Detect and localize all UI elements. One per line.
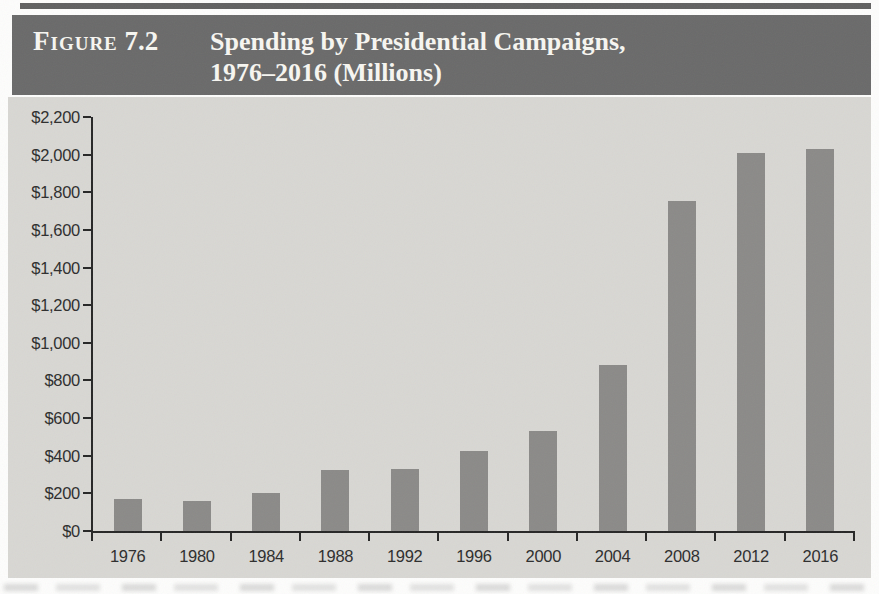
y-axis-tick	[83, 492, 91, 494]
x-axis-tick	[784, 533, 786, 541]
y-axis-line	[91, 117, 93, 541]
bar-1992	[391, 469, 419, 531]
y-axis-tick	[83, 229, 91, 231]
x-axis-tick	[853, 533, 855, 541]
figure-header: Figure 7.2 Spending by Presidential Camp…	[12, 15, 871, 95]
y-axis-label: $800	[8, 371, 80, 390]
y-axis-label: $1,200	[8, 296, 80, 315]
y-axis-label: $1,000	[8, 334, 80, 353]
y-axis-label: $1,800	[8, 183, 80, 202]
y-axis-label: $2,200	[8, 108, 80, 127]
bar-1976	[114, 499, 142, 531]
y-axis-label: $200	[8, 484, 80, 503]
figure-number: 7.2	[125, 26, 159, 56]
x-axis-tick	[299, 533, 301, 541]
bar-2012	[737, 153, 765, 531]
bar-1984	[252, 493, 280, 531]
x-axis-tick	[714, 533, 716, 541]
x-axis-tick	[645, 533, 647, 541]
y-axis-label: $0	[8, 522, 80, 541]
bar-2016	[806, 149, 834, 531]
x-axis-label: 1976	[93, 547, 162, 566]
y-axis-label: $2,000	[8, 146, 80, 165]
x-axis-tick	[576, 533, 578, 541]
y-axis-tick	[83, 116, 91, 118]
y-axis-tick	[83, 342, 91, 344]
y-axis-tick	[83, 379, 91, 381]
y-axis-label: $600	[8, 409, 80, 428]
bar-2004	[599, 365, 627, 531]
x-axis-label: 2012	[716, 547, 785, 566]
y-axis-tick	[83, 530, 91, 532]
y-axis-tick	[83, 304, 91, 306]
y-axis-tick	[83, 417, 91, 419]
bar-chart-panel: $0$200$400$600$800$1,000$1,200$1,400$1,6…	[8, 97, 871, 578]
x-axis-tick	[230, 533, 232, 541]
y-axis-tick	[83, 191, 91, 193]
cropped-caption-text	[4, 584, 874, 591]
figure-title: Spending by Presidential Campaigns, 1976…	[210, 26, 626, 88]
x-axis-line	[91, 531, 855, 533]
x-axis-label: 2004	[578, 547, 647, 566]
y-axis-tick	[83, 455, 91, 457]
x-axis-tick	[160, 533, 162, 541]
figure-title-line1: Spending by Presidential Campaigns,	[210, 26, 626, 57]
figure-number-label: Figure 7.2	[33, 26, 210, 57]
bar-2000	[529, 431, 557, 531]
bar-1988	[321, 470, 349, 531]
bar-1996	[460, 451, 488, 531]
y-axis-label: $400	[8, 447, 80, 466]
figure-word: Figure	[33, 26, 118, 56]
y-axis-label: $1,400	[8, 259, 80, 278]
y-axis-tick	[83, 154, 91, 156]
x-axis-tick	[368, 533, 370, 541]
bar-2008	[668, 201, 696, 531]
x-axis-label: 1992	[370, 547, 439, 566]
x-axis-label: 1980	[162, 547, 231, 566]
figure-title-line2: 1976–2016 (Millions)	[210, 57, 626, 88]
bar-1980	[183, 501, 211, 531]
x-axis-label: 1988	[301, 547, 370, 566]
x-axis-label: 2016	[786, 547, 855, 566]
top-rule-divider	[20, 3, 871, 9]
x-axis-tick	[437, 533, 439, 541]
x-axis-tick	[91, 533, 93, 541]
x-axis-label: 1996	[439, 547, 508, 566]
y-axis-tick	[83, 267, 91, 269]
x-axis-label: 2000	[509, 547, 578, 566]
x-axis-label: 1984	[232, 547, 301, 566]
figure-scan-page: Figure 7.2 Spending by Presidential Camp…	[0, 0, 879, 594]
x-axis-label: 2008	[647, 547, 716, 566]
x-axis-tick	[507, 533, 509, 541]
y-axis-label: $1,600	[8, 221, 80, 240]
